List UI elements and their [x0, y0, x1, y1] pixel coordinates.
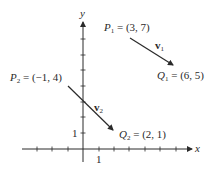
vector-v2-arrow	[68, 86, 113, 130]
q2-subscript: 2	[127, 134, 131, 142]
v2-subscript: 2	[100, 107, 104, 115]
vector-v2-label: v2	[94, 102, 103, 115]
point-p1-label: P1 = (3, 7)	[104, 22, 150, 35]
q1-coords: = (6, 5)	[171, 69, 204, 81]
v1-subscript: 1	[161, 45, 165, 53]
p2-name: P	[10, 71, 17, 83]
q1-subscript: 1	[165, 75, 169, 83]
vector-v1-arrow	[130, 38, 173, 65]
vector-v1-label: v1	[155, 40, 164, 53]
x-tick-label-1: 1	[96, 154, 102, 165]
point-q1-label: Q1 = (6, 5)	[157, 70, 204, 83]
p1-name: P	[104, 21, 111, 33]
y-tick-label-1: 1	[72, 128, 78, 139]
x-axis-label: x	[195, 143, 200, 154]
q2-coords: = (2, 1)	[133, 128, 166, 140]
p1-coords: = (3, 7)	[117, 21, 150, 33]
q1-name: Q	[157, 69, 165, 81]
point-p2-label: P2 = (−1, 4)	[10, 72, 62, 85]
p2-subscript: 2	[17, 77, 21, 85]
q2-name: Q	[119, 128, 127, 140]
y-axis-label: y	[80, 8, 85, 19]
p2-coords: = (−1, 4)	[23, 71, 62, 83]
p1-subscript: 1	[111, 27, 115, 35]
point-q2-label: Q2 = (2, 1)	[119, 129, 166, 142]
